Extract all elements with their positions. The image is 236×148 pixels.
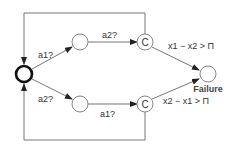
edge-label-a1-bottom: a1? [100, 109, 115, 119]
edge-label-x2-x1: x2 − x1 > Π [163, 96, 209, 106]
top-c-label: C [141, 37, 148, 48]
bottom-mid-node [72, 96, 88, 112]
automaton-diagram: C C Failure a1? a2? x1 − x2 > Π a2? a1? … [0, 0, 236, 148]
failure-label: Failure [193, 84, 223, 94]
edge-label-a2-top: a2? [102, 30, 117, 40]
edge-bottom-c-to-initial [24, 84, 145, 140]
initial-node [16, 66, 32, 82]
bottom-c-label: C [141, 99, 148, 110]
failure-node [200, 66, 216, 82]
edge-label-a2-bottom: a2? [38, 94, 53, 104]
edge-label-x1-x2: x1 − x2 > Π [168, 41, 214, 51]
edge-label-a1-top: a1? [38, 50, 53, 60]
top-mid-node [72, 34, 88, 50]
